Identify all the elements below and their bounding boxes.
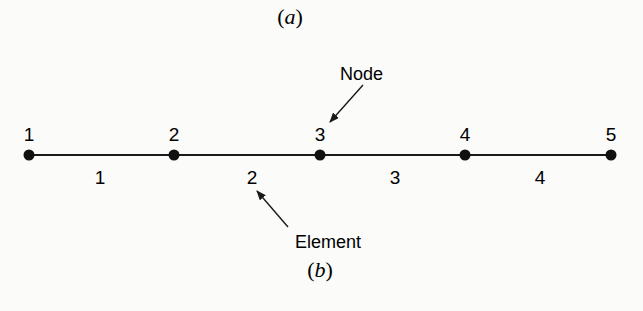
figure-part-b-label: (b) <box>307 257 333 282</box>
node-2-label: 2 <box>169 124 180 145</box>
finite-element-mesh-diagram: (a) 1 2 3 4 5 1 2 3 4 Node Element (b) <box>0 0 643 311</box>
node-callout-label: Node <box>340 64 383 84</box>
element-labels: 1 2 3 4 <box>95 167 546 188</box>
node-labels: 1 2 3 4 5 <box>24 124 617 145</box>
node-1-dot <box>24 150 35 161</box>
node-2-dot <box>169 150 180 161</box>
node-callout-arrow <box>330 85 363 122</box>
element-3-label: 3 <box>390 167 401 188</box>
element-callout-label: Element <box>295 232 361 252</box>
node-5-label: 5 <box>606 124 617 145</box>
node-4-dot <box>460 150 471 161</box>
element-callout-arrow <box>257 191 288 227</box>
element-4-label: 4 <box>535 167 546 188</box>
node-4-label: 4 <box>460 124 471 145</box>
node-5-dot <box>606 150 617 161</box>
node-1-label: 1 <box>24 124 35 145</box>
figure-part-a-label: (a) <box>277 4 303 29</box>
element-1-label: 1 <box>95 167 106 188</box>
element-2-label: 2 <box>247 167 258 188</box>
node-3-dot <box>315 150 326 161</box>
node-3-label: 3 <box>315 124 326 145</box>
